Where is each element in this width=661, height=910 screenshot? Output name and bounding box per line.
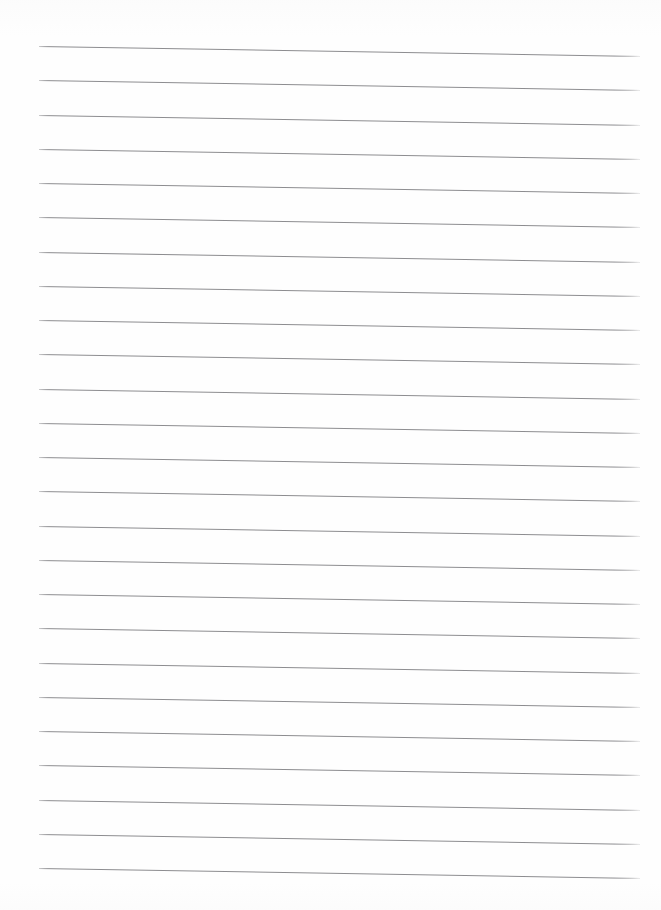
ruled-line — [39, 526, 640, 537]
ruled-line — [39, 252, 640, 263]
ruled-lines-group — [0, 0, 661, 910]
ruled-line — [39, 560, 640, 571]
ruled-line — [39, 149, 640, 160]
ruled-line — [39, 286, 640, 297]
ruled-line — [39, 868, 640, 879]
ruled-line — [39, 663, 640, 674]
ruled-line — [39, 217, 640, 228]
ruled-line — [39, 80, 640, 91]
ruled-line — [39, 765, 640, 776]
ruled-line — [39, 354, 640, 365]
ruled-line — [39, 183, 640, 194]
ruled-line — [39, 491, 640, 502]
ruled-line — [39, 457, 640, 468]
ruled-line — [39, 46, 640, 57]
ruled-line — [39, 731, 640, 742]
ruled-line — [39, 628, 640, 639]
ruled-line — [39, 320, 640, 331]
ruled-line — [39, 389, 640, 400]
ruled-line — [39, 800, 640, 811]
ruled-line — [39, 594, 640, 605]
ruled-line — [39, 697, 640, 708]
ruled-line — [39, 834, 640, 845]
ruled-line — [39, 423, 640, 434]
lined-paper-page — [0, 0, 661, 910]
ruled-line — [39, 115, 640, 126]
